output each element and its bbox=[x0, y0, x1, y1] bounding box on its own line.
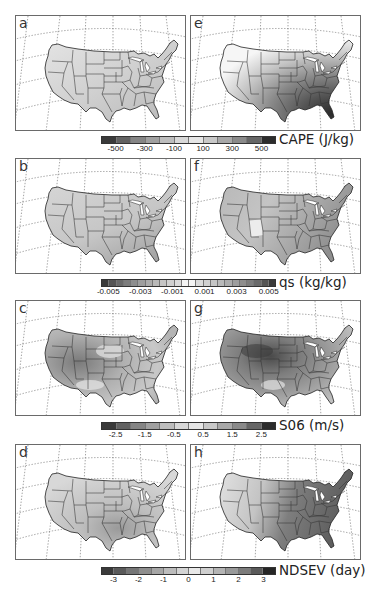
us-map bbox=[16, 16, 186, 131]
colorbar-ndsev bbox=[101, 567, 276, 575]
colorbar-segment bbox=[177, 568, 189, 574]
colorbar-ticks-cape: -500-300-100100300500 bbox=[101, 144, 276, 154]
colorbar-tick-label: 2.5 bbox=[256, 430, 267, 439]
colorbar-tick-label: -1 bbox=[160, 575, 167, 584]
us-map bbox=[16, 445, 186, 560]
colorbar-tick-label: 3 bbox=[261, 575, 265, 584]
colorbar-segment bbox=[114, 568, 126, 574]
colorbar-tick-label: 1.5 bbox=[227, 430, 238, 439]
colorbar-segment bbox=[247, 137, 262, 143]
colorbar-tick-label: -0.5 bbox=[167, 430, 181, 439]
colorbar-segment bbox=[175, 137, 190, 143]
colorbar-tick-label: -500 bbox=[108, 144, 124, 153]
panel-label: c bbox=[19, 300, 27, 316]
colorbar-qs bbox=[101, 279, 276, 287]
colorbar-segment bbox=[146, 137, 161, 143]
colorbar-segment bbox=[233, 280, 240, 286]
colorbar-tick-label: 2 bbox=[236, 575, 240, 584]
colorbar-segment bbox=[226, 568, 238, 574]
colorbar-segment bbox=[124, 280, 131, 286]
colorbar-segment bbox=[214, 568, 226, 574]
colorbar-segment bbox=[218, 423, 233, 429]
colorbar-label-cape: CAPE (J/kg) bbox=[279, 131, 354, 147]
colorbar-tick-label: 1 bbox=[211, 575, 215, 584]
colorbar-segment bbox=[160, 280, 167, 286]
map-panel-g: g bbox=[190, 300, 361, 416]
colorbar-tick-label: 300 bbox=[226, 144, 239, 153]
us-map bbox=[191, 159, 361, 274]
colorbar-segment bbox=[247, 423, 262, 429]
colorbar-tick-label: -2 bbox=[135, 575, 142, 584]
colorbar-s06 bbox=[101, 422, 276, 430]
colorbar-tick-label: 0.003 bbox=[227, 287, 247, 296]
colorbar-segment bbox=[189, 423, 204, 429]
colorbar-segment bbox=[152, 568, 164, 574]
colorbar-segment bbox=[117, 137, 132, 143]
colorbar-segment bbox=[175, 280, 182, 286]
colorbar-segment bbox=[146, 280, 153, 286]
colorbar-segment bbox=[233, 137, 248, 143]
colorbar-segment bbox=[240, 280, 247, 286]
colorbar-tick-label: 0 bbox=[186, 575, 190, 584]
colorbar-label-s06: S06 (m/s) bbox=[279, 417, 344, 433]
colorbar-segment bbox=[131, 137, 146, 143]
colorbar-segment bbox=[164, 568, 176, 574]
colorbar-segment bbox=[109, 280, 116, 286]
map-panel-h: h bbox=[190, 444, 361, 560]
colorbar-segment bbox=[160, 137, 175, 143]
panel-label: e bbox=[194, 15, 203, 31]
colorbar-segment bbox=[117, 423, 132, 429]
colorbar-segment bbox=[189, 568, 201, 574]
colorbar-segment bbox=[247, 280, 254, 286]
colorbar-segment bbox=[102, 280, 109, 286]
colorbar-segment bbox=[211, 280, 218, 286]
colorbar-ticks-s06: -2.5-1.5-0.50.51.52.5 bbox=[101, 430, 276, 440]
colorbar-segment bbox=[204, 137, 219, 143]
us-map bbox=[191, 301, 361, 416]
map-panel-b: b bbox=[15, 158, 186, 274]
colorbar-ticks-ndsev: -3-2-10123 bbox=[101, 575, 276, 585]
colorbar-tick-label: -0.003 bbox=[129, 287, 152, 296]
colorbar-segment bbox=[218, 280, 225, 286]
colorbar-tick-label: 100 bbox=[196, 144, 209, 153]
colorbar-tick-label: -0.001 bbox=[161, 287, 184, 296]
colorbar-segment bbox=[254, 280, 261, 286]
colorbar-segment bbox=[175, 423, 190, 429]
colorbar-segment bbox=[189, 137, 204, 143]
colorbar-tick-label: 0.5 bbox=[198, 430, 209, 439]
colorbar-segment bbox=[251, 568, 263, 574]
colorbar-segment bbox=[102, 137, 117, 143]
colorbar-segment bbox=[160, 423, 175, 429]
colorbar-segment bbox=[117, 280, 124, 286]
us-map bbox=[191, 16, 361, 131]
colorbar-segment bbox=[102, 423, 117, 429]
colorbar-tick-label: -300 bbox=[137, 144, 153, 153]
panel-label: g bbox=[194, 300, 203, 316]
map-panel-a: a bbox=[15, 15, 186, 131]
colorbar-segment bbox=[218, 137, 233, 143]
colorbar-segment bbox=[189, 280, 196, 286]
panel-label: d bbox=[19, 444, 28, 460]
colorbar-segment bbox=[102, 568, 114, 574]
colorbar-segment bbox=[269, 280, 275, 286]
map-panel-e: e bbox=[190, 15, 361, 131]
panel-label: a bbox=[19, 15, 28, 31]
panel-label: f bbox=[194, 158, 199, 174]
colorbar-segment bbox=[182, 280, 189, 286]
us-map bbox=[191, 445, 361, 560]
colorbar-segment bbox=[262, 137, 276, 143]
colorbar-tick-label: 500 bbox=[255, 144, 268, 153]
colorbar-segment bbox=[167, 280, 174, 286]
colorbar-tick-label: -1.5 bbox=[138, 430, 152, 439]
colorbar-segment bbox=[239, 568, 251, 574]
colorbar-segment bbox=[201, 568, 213, 574]
us-map bbox=[16, 301, 186, 416]
colorbar-segment bbox=[262, 423, 276, 429]
colorbar-ticks-qs: -0.005-0.003-0.0010.0010.0030.005 bbox=[101, 287, 276, 297]
panel-label: b bbox=[19, 158, 28, 174]
colorbar-segment bbox=[263, 568, 274, 574]
map-panel-f: f bbox=[190, 158, 361, 274]
colorbar-segment bbox=[131, 423, 146, 429]
colorbar-segment bbox=[225, 280, 232, 286]
colorbar-segment bbox=[146, 423, 161, 429]
